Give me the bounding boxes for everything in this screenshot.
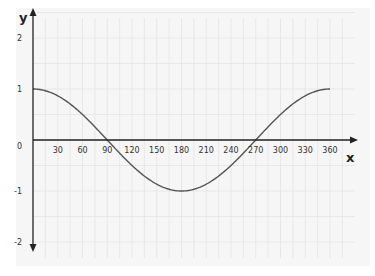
x-tick-label: 240	[223, 146, 238, 155]
x-tick-label: 210	[199, 146, 214, 155]
y-tick-label: -2	[14, 238, 22, 247]
x-tick-label: 360	[322, 146, 337, 155]
y-tick-label: 0	[17, 142, 22, 151]
plot-background	[16, 8, 370, 266]
x-tick-label: 300	[273, 146, 288, 155]
x-tick-label: 120	[124, 146, 139, 155]
x-axis-label: x	[346, 150, 355, 165]
x-tick-label: 90	[102, 146, 112, 155]
x-tick-label: 150	[149, 146, 164, 155]
x-tick-label: 60	[77, 146, 87, 155]
x-tick-label: 30	[53, 146, 63, 155]
chart: 306090120150180210240270300330360 210-1-…	[0, 0, 375, 276]
y-axis-label: y	[19, 10, 28, 25]
y-tick-label: 2	[17, 34, 22, 43]
x-tick-label: 180	[174, 146, 189, 155]
x-tick-label: 270	[248, 146, 263, 155]
x-tick-label: 330	[298, 146, 313, 155]
y-tick-label: -1	[14, 187, 22, 196]
y-tick-label: 1	[17, 85, 22, 94]
